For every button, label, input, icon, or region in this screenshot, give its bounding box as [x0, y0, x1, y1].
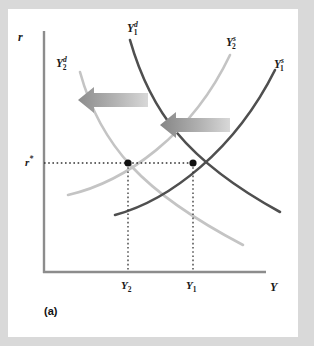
- tick-label-Y2-text: Y2: [121, 279, 131, 291]
- tick-label-r-star-text: r*: [25, 156, 33, 168]
- supply-shift-arrow: [160, 112, 230, 138]
- supply-demand-plot: [8, 9, 298, 337]
- figure-card: r Y Yd1 Yd2 Ys2 Ys1 r* Y2 Y1 (a): [8, 9, 298, 337]
- curve-label-Y2d-text: Yd2: [56, 57, 67, 69]
- tick-label-Y1: Y1: [186, 280, 196, 291]
- panel-label: (a): [44, 306, 57, 317]
- curve-Y1s: [115, 70, 275, 215]
- tick-label-Y2: Y2: [121, 280, 131, 291]
- equilibrium-point-Y2: [124, 159, 131, 166]
- tick-label-r-star: r*: [25, 157, 33, 168]
- equilibrium-point-Y1: [189, 159, 196, 166]
- demand-shift-arrow: [78, 87, 148, 113]
- curve-label-Y2d: Yd2: [56, 58, 67, 70]
- curve-label-Y1s: Ys1: [274, 59, 284, 71]
- curve-label-Y2s: Ys2: [226, 37, 236, 49]
- y-axis-label: r: [18, 31, 23, 43]
- figure-root: r Y Yd1 Yd2 Ys2 Ys1 r* Y2 Y1 (a): [0, 0, 314, 346]
- x-axis-label: Y: [270, 281, 277, 293]
- tick-label-Y1-text: Y1: [186, 279, 196, 291]
- curve-label-Y2s-text: Ys2: [226, 36, 236, 48]
- curve-label-Y1d-text: Yd1: [127, 22, 138, 34]
- curve-label-Y1d: Yd1: [127, 23, 138, 35]
- curve-label-Y1s-text: Ys1: [274, 58, 284, 70]
